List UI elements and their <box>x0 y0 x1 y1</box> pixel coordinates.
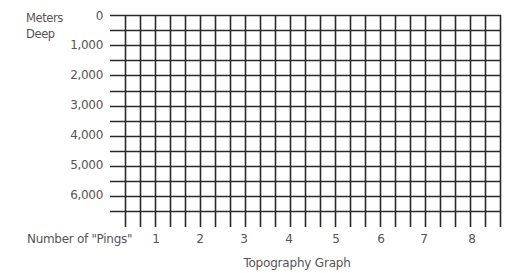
x-tick-6: 6 <box>371 233 391 245</box>
x-axis-title: Number of "Pings" <box>27 233 132 245</box>
x-tick-5: 5 <box>326 233 346 245</box>
chart-title-text: Topography Graph <box>243 256 350 270</box>
x-tick-8: 8 <box>462 233 482 245</box>
x-tick-7: 7 <box>414 233 434 245</box>
x-tick-4: 4 <box>279 233 299 245</box>
x-tick-3: 3 <box>234 233 254 245</box>
x-tick-2: 2 <box>190 233 210 245</box>
x-tick-1: 1 <box>146 233 166 245</box>
chart-title: Topography Graph <box>0 257 528 269</box>
